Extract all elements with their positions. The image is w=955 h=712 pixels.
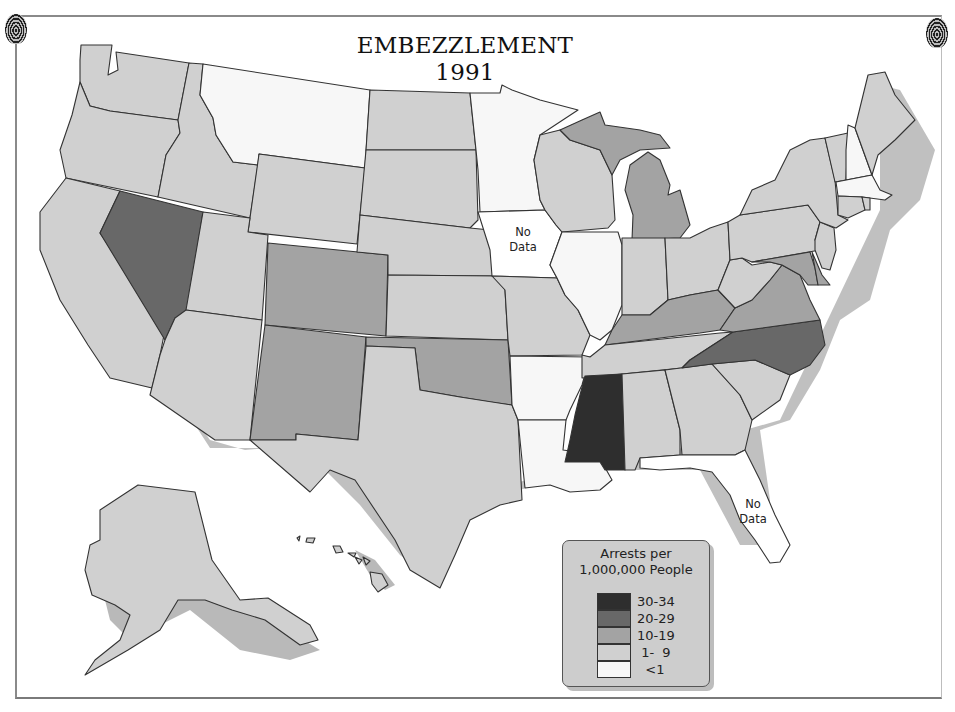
legend-item: <1 xyxy=(597,661,707,678)
state-north-dakota[interactable] xyxy=(366,90,476,150)
label-line: Data xyxy=(733,512,773,527)
label-line: Data xyxy=(503,240,543,255)
state-colorado[interactable] xyxy=(265,243,388,336)
state-michigan-lower[interactable] xyxy=(625,152,690,240)
legend-swatch xyxy=(597,627,631,644)
legend-range: 30-34 xyxy=(637,593,675,610)
state-kansas[interactable] xyxy=(386,275,508,340)
state-indiana[interactable] xyxy=(622,238,668,315)
state-south-dakota[interactable] xyxy=(360,150,478,228)
legend-title: Arrests per 1,000,000 People xyxy=(563,546,709,578)
legend-swatch xyxy=(597,593,631,610)
us-map xyxy=(0,0,955,712)
iowa-no-data-label: No Data xyxy=(503,225,543,255)
legend-item: 30-34 xyxy=(597,593,707,610)
legend: Arrests per 1,000,000 People 30-34 20-29… xyxy=(562,540,710,687)
legend-item: 1- 9 xyxy=(597,644,707,661)
state-connecticut[interactable] xyxy=(838,196,865,218)
state-new-mexico[interactable] xyxy=(250,325,366,440)
legend-range: 20-29 xyxy=(637,610,675,627)
state-wyoming[interactable] xyxy=(248,154,365,244)
legend-swatch xyxy=(597,661,631,678)
legend-range: 10-19 xyxy=(637,627,675,644)
legend-item: 20-29 xyxy=(597,610,707,627)
legend-title-line2: 1,000,000 People xyxy=(563,562,709,578)
state-new-jersey[interactable] xyxy=(815,222,836,270)
legend-range: 1- 9 xyxy=(637,644,671,661)
florida-no-data-label: No Data xyxy=(733,497,773,527)
legend-range: <1 xyxy=(637,661,664,678)
legend-swatch xyxy=(597,644,631,661)
legend-swatch xyxy=(597,610,631,627)
legend-item: 10-19 xyxy=(597,627,707,644)
label-line: No xyxy=(503,225,543,240)
legend-title-line1: Arrests per xyxy=(563,546,709,562)
label-line: No xyxy=(733,497,773,512)
